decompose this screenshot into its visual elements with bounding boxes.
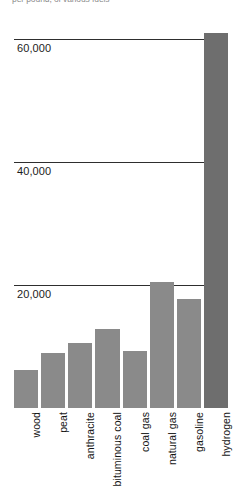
category-label-gasoline: gasoline: [194, 412, 205, 452]
category-label-anthracite: anthracite: [85, 412, 96, 459]
category-label-bituminous-coal: bituminous coal: [112, 412, 123, 486]
bar-peat: [41, 353, 65, 408]
gridline-40000: [14, 162, 228, 163]
category-label-peat: peat: [58, 412, 69, 433]
category-label-wood: wood: [31, 412, 42, 438]
y-tick-label-40000: 40,000: [17, 165, 51, 178]
category-label-coal-gas: coal gas: [140, 412, 151, 452]
bar-gasoline: [177, 299, 201, 408]
category-label-hydrogen: hydrogen: [221, 412, 232, 457]
bar-natural-gas: [150, 282, 174, 408]
bar-bituminous-coal: [95, 329, 119, 408]
category-label-natural-gas: natural gas: [167, 412, 178, 465]
y-tick-label-60000: 60,000: [17, 42, 51, 55]
gridline-20000: [14, 285, 228, 286]
bar-coal-gas: [123, 351, 147, 408]
bar-chart: per pound, of various fuels 20,00040,000…: [0, 0, 243, 499]
category-axis: woodpeatanthracitebituminous coalcoal ga…: [0, 408, 243, 499]
bar-wood: [14, 370, 38, 408]
gridline-60000: [14, 39, 228, 40]
y-tick-label-20000: 20,000: [17, 288, 51, 301]
plot-area: 20,00040,00060,000: [0, 0, 243, 408]
bar-hydrogen: [204, 33, 228, 408]
bar-anthracite: [68, 343, 92, 408]
